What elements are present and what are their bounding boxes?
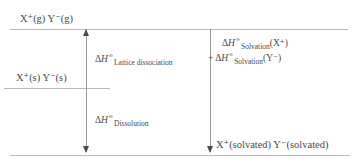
- enthalpy-term-solvation-cation: ΔH⦵Solvation(X⁺): [222, 36, 288, 48]
- enthalpy-term-subscript: Dissolution: [114, 119, 149, 128]
- enthalpy-cycle-diagram: X⁺(g) Y⁻(g) X⁺(s) Y⁻(s) X⁺(solvated) Y⁻(…: [0, 0, 353, 163]
- level-label-solid-lattice: X⁺(s) Y⁻(s): [16, 72, 67, 84]
- arrow-head-down-icon: [83, 146, 89, 153]
- left-arrow-shaft: [86, 29, 87, 152]
- enthalpy-term-lattice-dissociation: ΔH⦵Lattice dissociation: [95, 52, 173, 64]
- level-label-solvated-ions: X⁺(solvated) Y⁻(solvated): [216, 139, 328, 151]
- enthalpy-term-subscript: Solvation: [234, 57, 263, 66]
- enthalpy-term-species-cation: (X⁺): [270, 38, 288, 48]
- enthalpy-h-italic: H: [228, 38, 235, 48]
- energy-level-line-solid: [4, 88, 110, 89]
- enthalpy-term-solvation-anion: + ΔH⦵Solvation(Y⁻): [208, 51, 288, 63]
- energy-level-line-solvated: [10, 155, 350, 156]
- arrow-head-down-icon: [207, 146, 213, 153]
- arrow-head-up-icon: [83, 29, 89, 36]
- enthalpy-term-subscript: Lattice dissociation: [114, 58, 173, 67]
- energy-level-line-gas: [10, 29, 348, 30]
- enthalpy-term-dissolution: ΔH⦵Dissolution: [95, 113, 149, 125]
- enthalpy-term-solvation-group: ΔH⦵Solvation(X⁺) + ΔH⦵Solvation(Y⁻): [208, 36, 288, 66]
- enthalpy-term-species-anion: (Y⁻): [263, 53, 281, 63]
- enthalpy-h-italic: H: [101, 115, 108, 125]
- enthalpy-h-italic: H: [101, 54, 108, 64]
- enthalpy-term-subscript: Solvation: [241, 42, 270, 51]
- plus-sign: +: [208, 53, 213, 63]
- level-label-gaseous-ions: X⁺(g) Y⁻(g): [20, 13, 73, 25]
